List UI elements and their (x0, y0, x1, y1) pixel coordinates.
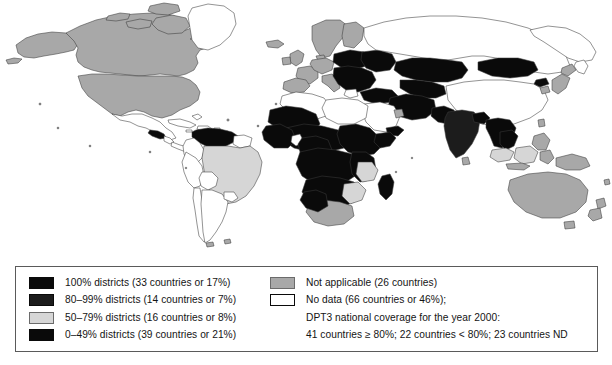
legend-swatch-50-79-districts (29, 312, 54, 324)
legend-swatch-not-applicable (270, 277, 295, 289)
island-pacific-fiji (604, 179, 610, 185)
country-taiwan (538, 119, 545, 127)
legend-item-50-79-districts: 50–79% districts (16 countries or 8%) (29, 309, 268, 327)
legend-label-dpt3-coverage-breakdown: 41 countries ≥ 80%; 22 countries < 80%; … (306, 329, 568, 341)
legend-swatch-no-data (270, 294, 295, 306)
island-canaries (275, 103, 277, 105)
island-pacific-small-6 (185, 167, 187, 169)
legend-swatch-0-49-districts (29, 329, 54, 341)
island-pacific-small-3 (57, 127, 59, 129)
world-map-panel (0, 0, 612, 258)
island-indian-ocean-2 (411, 157, 413, 159)
country-gulf-states (394, 109, 404, 118)
country-ireland (282, 57, 291, 65)
island-pacific-small-4 (89, 145, 91, 147)
island-pacific-small-1 (227, 119, 229, 121)
island-tierra-del-fuego (206, 242, 214, 247)
world-map-svg (0, 0, 612, 258)
legend-item-dpt3-breakdown: 41 countries ≥ 80%; 22 countries < 80%; … (270, 327, 597, 345)
island-jamaica (186, 130, 192, 132)
legend-item-not-applicable: Not applicable (26 countries) (270, 274, 597, 292)
legend-label-80-99-districts: 80–99% districts (14 countries or 7%) (65, 294, 236, 306)
country-tasmania (564, 221, 575, 229)
island-indian-ocean-1 (395, 171, 397, 173)
legend-item-dpt3-note: DPT3 national coverage for the year 2000… (270, 309, 597, 327)
island-pacific-small-5 (149, 151, 151, 153)
figure-root: 100% districts (33 countries or 17%) 80–… (0, 0, 612, 365)
map-legend: 100% districts (33 countries or 17%) 80–… (15, 266, 598, 352)
legend-label-dpt3-coverage-heading: DPT3 national coverage for the year 2000… (306, 312, 500, 324)
legend-swatch-80-99-districts (29, 294, 54, 306)
legend-label-0-49-districts: 0–49% districts (39 countries or 21%) (65, 329, 236, 341)
legend-label-100-districts: 100% districts (33 countries or 17%) (65, 277, 230, 289)
island-pacific-small-2 (39, 103, 41, 105)
legend-swatch-100-districts (29, 277, 54, 289)
legend-column-left: 100% districts (33 countries or 17%) 80–… (16, 274, 268, 351)
legend-swatch-spacer-2 (270, 329, 295, 341)
legend-label-50-79-districts: 50–79% districts (16 countries or 8%) (65, 312, 236, 324)
legend-label-no-data: No data (66 countries or 46%); (306, 294, 446, 306)
legend-column-right: Not applicable (26 countries) No data (6… (268, 274, 597, 351)
island-capeverde (257, 125, 259, 127)
legend-swatch-spacer-1 (270, 312, 295, 324)
legend-item-no-data: No data (66 countries or 46%); (270, 292, 597, 310)
legend-label-not-applicable: Not applicable (26 countries) (306, 277, 437, 289)
legend-item-100-districts: 100% districts (33 countries or 17%) (29, 274, 268, 292)
legend-item-0-49-districts: 0–49% districts (39 countries or 21%) (29, 327, 268, 345)
island-falklands (224, 239, 231, 244)
legend-item-80-99-districts: 80–99% districts (14 countries or 7%) (29, 292, 268, 310)
